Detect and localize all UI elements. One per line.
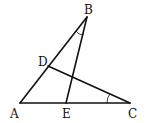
label-b: B (84, 3, 93, 17)
angle-mark-c (107, 94, 110, 103)
label-e: E (62, 107, 71, 121)
label-d: D (38, 55, 48, 69)
label-c: C (128, 107, 137, 121)
triangle-diagram: B D A E C (0, 0, 148, 123)
segment-cd (48, 66, 130, 103)
label-a: A (9, 107, 19, 121)
